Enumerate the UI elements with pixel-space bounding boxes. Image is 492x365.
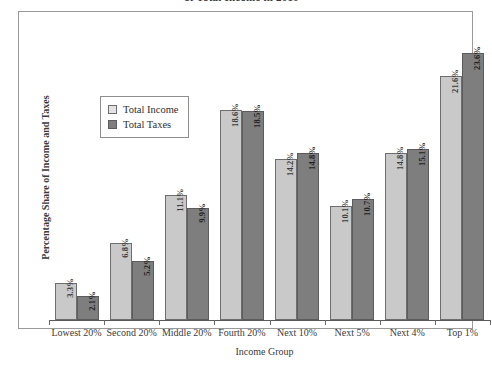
- plot-frame: Percentage Share of Income and Taxes 3.3…: [18, 11, 473, 329]
- bar-value-label: 18.6%: [231, 103, 240, 127]
- bar-value-label: 2.1%: [88, 292, 97, 312]
- bar-total-taxes[interactable]: 10.7%: [352, 199, 374, 320]
- bar-total-taxes[interactable]: 14.8%: [297, 153, 319, 320]
- bar-group: 6.8%5.2%: [104, 26, 159, 320]
- axis-tick: [325, 320, 326, 325]
- bar-total-taxes[interactable]: 2.1%: [77, 296, 99, 320]
- x-tick-label: Second 20%: [104, 327, 159, 338]
- x-tick-label: Lowest 20%: [49, 327, 104, 338]
- bar-value-label: 10.1%: [341, 199, 350, 223]
- bar-total-income[interactable]: 14.8%: [385, 153, 407, 320]
- bar-value-label: 14.8%: [396, 146, 405, 170]
- bar-group: 18.6%18.5%: [214, 26, 269, 320]
- axis-tick: [380, 320, 381, 325]
- bar-group: 11.1%9.9%: [159, 26, 214, 320]
- bar-total-income[interactable]: 21.6%: [440, 76, 462, 320]
- axis-tick: [270, 320, 271, 325]
- x-tick-label: Next 4%: [380, 327, 435, 338]
- bar-value-label: 6.8%: [121, 238, 130, 258]
- x-tick-label: Middle 20%: [159, 327, 214, 338]
- bar-total-income[interactable]: 11.1%: [165, 195, 187, 321]
- bar-total-income[interactable]: 6.8%: [110, 243, 132, 320]
- bar-total-income[interactable]: 18.6%: [220, 110, 242, 320]
- bar-value-label: 10.7%: [363, 192, 372, 216]
- legend-swatch-icon-total-taxes: [108, 120, 117, 129]
- axis-tick: [435, 320, 436, 325]
- chart-title: of Total Income in 2010: [0, 0, 483, 3]
- bar-groups: 3.3%2.1%6.8%5.2%11.1%9.9%18.6%18.5%14.2%…: [49, 26, 490, 320]
- bar-value-label: 11.1%: [176, 188, 185, 211]
- axis-tick: [214, 320, 215, 325]
- bar-value-label: 21.6%: [451, 69, 460, 93]
- x-tick-label: Fourth 20%: [214, 327, 269, 338]
- bar-value-label: 18.5%: [253, 104, 262, 128]
- legend-swatch-icon-total-income: [108, 105, 117, 114]
- bar-value-label: 14.8%: [308, 146, 317, 170]
- axis-tick: [490, 320, 491, 325]
- bar-value-label: 14.2%: [286, 153, 295, 177]
- bar-value-label: 5.2%: [143, 256, 152, 276]
- x-tick-label: Next 5%: [325, 327, 380, 338]
- bar-total-taxes[interactable]: 15.1%: [407, 149, 429, 320]
- x-axis-ticks: [49, 320, 490, 325]
- bar-value-label: 3.3%: [66, 278, 75, 298]
- bar-group: 3.3%2.1%: [49, 26, 104, 320]
- bar-group: 14.2%14.8%: [270, 26, 325, 320]
- x-tick-label: Top 1%: [435, 327, 490, 338]
- bar-value-label: 9.9%: [198, 203, 207, 223]
- bar-group: 10.1%10.7%: [325, 26, 380, 320]
- bar-value-label: 23.6%: [473, 46, 482, 70]
- bar-total-taxes[interactable]: 5.2%: [132, 261, 154, 320]
- legend-label-total-taxes: Total Taxes: [123, 119, 171, 130]
- bar-group: 21.6%23.6%: [435, 26, 490, 320]
- bar-total-taxes[interactable]: 18.5%: [242, 111, 264, 320]
- legend-label-total-income: Total Income: [123, 104, 179, 115]
- bar-value-label: 15.1%: [418, 142, 427, 166]
- bar-total-income[interactable]: 10.1%: [330, 206, 352, 320]
- axis-tick: [104, 320, 105, 325]
- bar-total-taxes[interactable]: 23.6%: [462, 53, 484, 320]
- x-axis-tick-labels: Lowest 20%Second 20%Middle 20%Fourth 20%…: [49, 327, 490, 338]
- bar-group: 14.8%15.1%: [380, 26, 435, 320]
- legend-item-total-taxes: Total Taxes: [108, 117, 179, 132]
- bar-total-taxes[interactable]: 9.9%: [187, 208, 209, 320]
- axis-tick: [49, 320, 50, 325]
- legend-item-total-income: Total Income: [108, 102, 179, 117]
- x-tick-label: Next 10%: [270, 327, 325, 338]
- bar-total-income[interactable]: 14.2%: [275, 159, 297, 320]
- bar-total-income[interactable]: 3.3%: [55, 283, 77, 320]
- chart-legend: Total Income Total Taxes: [100, 96, 189, 138]
- axis-tick: [159, 320, 160, 325]
- x-axis-label: Income Group: [37, 346, 492, 357]
